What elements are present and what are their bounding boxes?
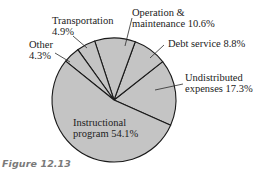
- label-operation: Operation & maintenance 10.6%: [132, 7, 215, 29]
- label-instructional: Instructional program 54.1%: [73, 117, 138, 139]
- label-undistributed: Undistributed expenses 17.3%: [185, 72, 253, 94]
- label-other-name: Other: [29, 39, 53, 50]
- label-operation-name: Operation &: [132, 7, 215, 18]
- label-transportation-name: Transportation: [52, 15, 113, 26]
- label-instructional-value: program 54.1%: [73, 128, 138, 139]
- label-debt-name: Debt service 8.8%: [168, 38, 245, 49]
- label-debt: Debt service 8.8%: [168, 38, 245, 49]
- label-operation-value: maintenance 10.6%: [132, 18, 215, 29]
- label-transportation-value: 4.9%: [52, 26, 113, 37]
- figure-caption: Figure 12.13: [2, 158, 71, 169]
- label-transportation: Transportation 4.9%: [52, 15, 113, 37]
- label-undistributed-value: expenses 17.3%: [185, 83, 253, 94]
- label-instructional-name: Instructional: [73, 117, 138, 128]
- label-undistributed-name: Undistributed: [185, 72, 253, 83]
- label-other: Other 4.3%: [29, 39, 53, 61]
- leader-line-other: [55, 53, 70, 62]
- label-other-value: 4.3%: [29, 50, 53, 61]
- leader-line-transportation: [73, 36, 87, 48]
- pie-slices: [52, 38, 176, 162]
